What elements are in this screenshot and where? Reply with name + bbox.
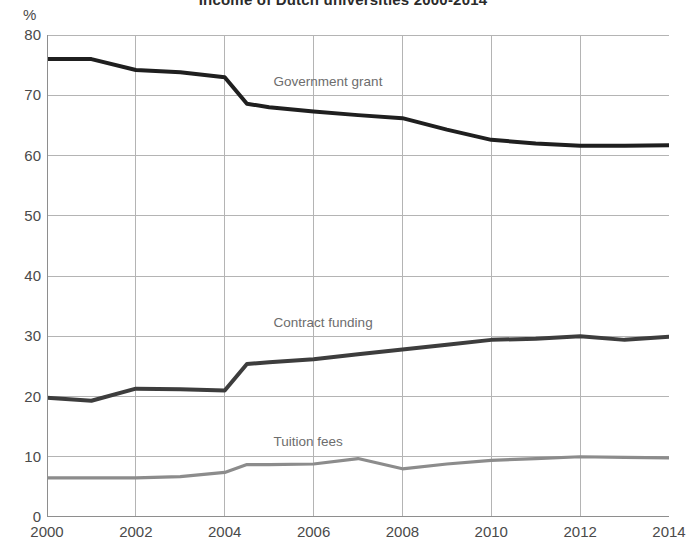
y-tick-30: 30: [5, 328, 41, 343]
series-label-government-grant: Government grant: [274, 75, 383, 89]
x-tick-2000: 2000: [17, 524, 77, 539]
x-tick-2004: 2004: [195, 524, 255, 539]
plot-area: Government grantContract fundingTuition …: [47, 35, 669, 517]
x-tick-2002: 2002: [106, 524, 166, 539]
y-tick-10: 10: [5, 449, 41, 464]
y-axis-unit-label: %: [23, 6, 36, 23]
y-tick-70: 70: [5, 87, 41, 102]
series-line-contract-funding: [47, 336, 669, 400]
chart-title: Income of Dutch universities 2000-2014: [0, 0, 686, 8]
chart-plot-svg: [47, 35, 669, 517]
y-tick-80: 80: [5, 27, 41, 42]
x-tick-2006: 2006: [284, 524, 344, 539]
y-axis-tick-labels: 80706050403020100: [0, 35, 41, 517]
x-tick-2008: 2008: [372, 524, 432, 539]
series-label-contract-funding: Contract funding: [274, 316, 373, 330]
y-tick-0: 0: [5, 509, 41, 524]
x-tick-2012: 2012: [550, 524, 610, 539]
y-tick-60: 60: [5, 148, 41, 163]
y-tick-20: 20: [5, 389, 41, 404]
y-tick-50: 50: [5, 208, 41, 223]
y-tick-40: 40: [5, 268, 41, 283]
series-line-tuition-fees: [47, 457, 669, 478]
series-line-government-grant: [47, 59, 669, 146]
x-tick-2010: 2010: [461, 524, 521, 539]
grid-lines: [47, 35, 669, 517]
series-label-tuition-fees: Tuition fees: [274, 435, 343, 449]
series-lines: [47, 59, 669, 478]
chart-container: Income of Dutch universities 2000-2014 %…: [0, 0, 686, 555]
x-tick-2014: 2014: [639, 524, 686, 539]
x-axis-tick-labels: 20002002200420062008201020122014: [47, 524, 669, 548]
